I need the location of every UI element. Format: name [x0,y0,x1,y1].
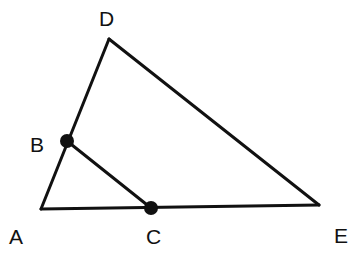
geometry-diagram: D B A C E [0,0,350,255]
label-a: A [9,225,23,248]
segment-bc [67,141,151,208]
label-c: C [146,225,161,248]
label-e: E [334,224,348,247]
diagram-svg: D B A C E [0,0,350,255]
point-b-dot [60,134,74,148]
segment-de [109,39,319,205]
point-c-dot [144,201,158,215]
segment-ad [41,39,109,209]
label-d: D [99,7,114,30]
segment-ae [41,205,319,209]
label-b: B [30,133,44,156]
